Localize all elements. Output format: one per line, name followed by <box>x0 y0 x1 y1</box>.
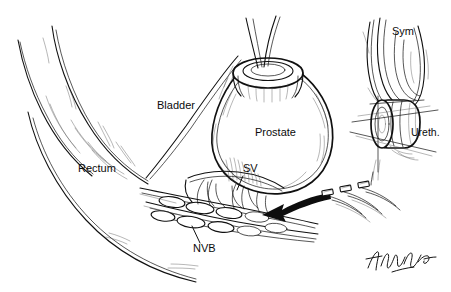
suture-tag <box>322 189 334 196</box>
label-ureth: Ureth. <box>411 126 440 138</box>
anatomy-illustration: Bladder Prostate Rectum SV NVB Sym Ureth… <box>0 0 451 292</box>
label-sv: SV <box>243 162 258 174</box>
suture-tag <box>358 181 370 188</box>
label-rectum: Rectum <box>78 162 116 174</box>
illustration-canvas: Bladder Prostate Rectum SV NVB Sym Ureth… <box>0 0 451 292</box>
label-nvb: NVB <box>193 242 216 254</box>
label-sym: Sym <box>392 25 414 37</box>
label-prostate: Prostate <box>255 126 296 138</box>
suture-tag <box>340 185 352 192</box>
label-bladder: Bladder <box>157 99 195 111</box>
